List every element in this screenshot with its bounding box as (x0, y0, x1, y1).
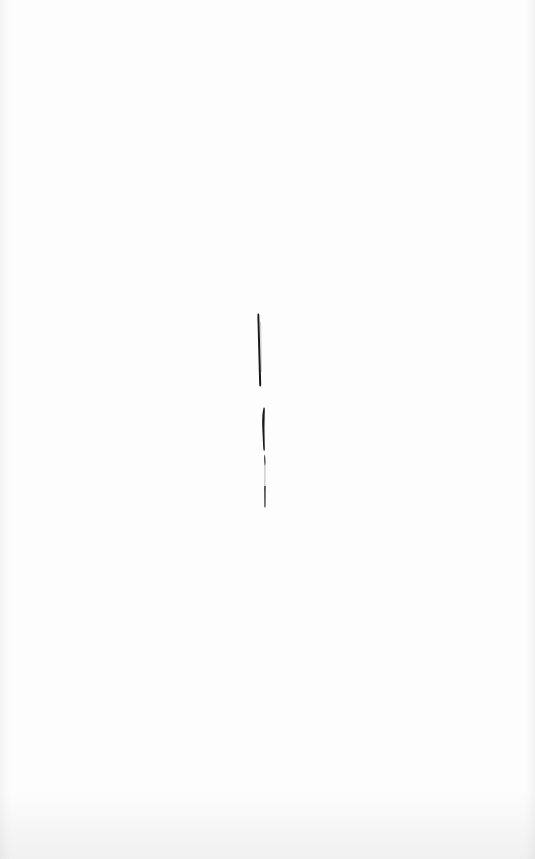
upper-brush-stroke (254, 312, 266, 390)
paper-canvas (0, 0, 535, 859)
lower-brush-stroke (257, 404, 271, 514)
